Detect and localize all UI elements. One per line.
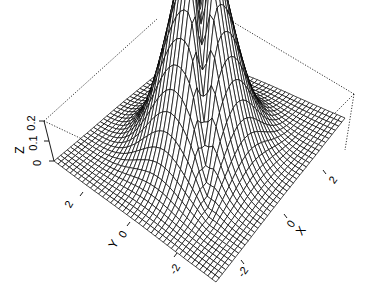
x-tick-neg2 bbox=[241, 260, 244, 264]
z-axis-label: Z bbox=[13, 146, 27, 153]
y-tick-label-2: 2 bbox=[62, 198, 75, 209]
x-tick-0 bbox=[284, 214, 287, 218]
y-tick-0 bbox=[127, 222, 130, 226]
surface-mesh bbox=[54, 0, 345, 282]
y-tick-neg2 bbox=[174, 253, 177, 257]
z-tick-label-0: 0 bbox=[31, 160, 43, 166]
z-tick-label-2: 0.2 bbox=[25, 115, 37, 130]
surface-plot-svg: 0 0.1 0.2 Z 2 0 Y -2 -2 0 X 2 bbox=[0, 0, 369, 298]
z-tick-label-1: 0.1 bbox=[27, 135, 39, 150]
y-tick-label-0: 0 bbox=[116, 228, 129, 239]
x-tick-2 bbox=[323, 170, 326, 174]
y-axis-label: Y bbox=[105, 237, 121, 251]
x-tick-label-2: 2 bbox=[326, 174, 339, 186]
y-tick-label-neg2: -2 bbox=[167, 262, 182, 276]
surface-plot: 0 0.1 0.2 Z 2 0 Y -2 -2 0 X 2 bbox=[0, 0, 369, 298]
box-edge-left-inner bbox=[44, 121, 82, 139]
x-axis-label: X bbox=[293, 223, 309, 238]
y-tick-2 bbox=[80, 192, 83, 196]
z-axis bbox=[39, 121, 54, 161]
x-tick-label-neg2: -2 bbox=[235, 264, 250, 279]
box-edge-right-vertical bbox=[345, 94, 354, 150]
